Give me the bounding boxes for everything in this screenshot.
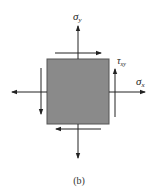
sigma-x-label: σx <box>136 75 145 89</box>
tau-xy-label: τxy <box>117 55 126 67</box>
sigma-y-label: σy <box>73 10 82 24</box>
figure-caption: (b) <box>73 175 85 187</box>
stress-element-square <box>47 59 109 124</box>
stress-element-diagram: σy τxy σx (b) <box>0 0 159 194</box>
